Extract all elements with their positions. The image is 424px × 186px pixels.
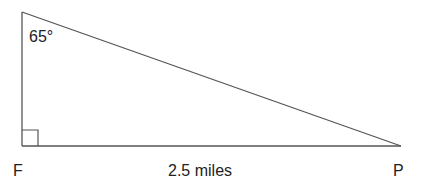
angle-label: 65° <box>29 28 53 46</box>
triangle-figure <box>0 0 424 186</box>
hypotenuse <box>22 12 401 146</box>
triangle-diagram: 65° F 2.5 miles P <box>0 0 424 186</box>
vertex-f-label: F <box>13 162 23 180</box>
base-length-label: 2.5 miles <box>168 162 232 180</box>
right-angle-marker-icon <box>22 130 38 146</box>
vertex-p-label: P <box>393 162 404 180</box>
